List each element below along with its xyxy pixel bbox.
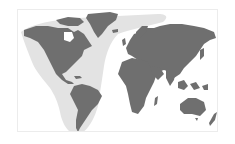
united-kingdom [122, 38, 126, 46]
tasmania [195, 118, 198, 121]
new-zealand [209, 112, 217, 126]
world-map [18, 10, 218, 132]
japan [200, 48, 204, 60]
madagascar [154, 96, 158, 106]
australia [180, 98, 206, 116]
southeast-asia-islands [178, 80, 208, 90]
india [166, 70, 176, 86]
map-frame [17, 9, 218, 132]
